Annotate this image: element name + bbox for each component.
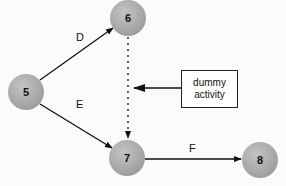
edge-label-d: D bbox=[76, 31, 84, 43]
dummy-activity-callout: dummy activity bbox=[181, 70, 238, 108]
node-8: 8 bbox=[242, 142, 278, 178]
edge-e-arrow bbox=[40, 104, 112, 148]
node-5: 5 bbox=[8, 74, 44, 110]
node-6: 6 bbox=[110, 0, 146, 36]
edge-label-f: F bbox=[189, 142, 196, 154]
callout-line-2: activity bbox=[194, 89, 225, 101]
callout-line-1: dummy bbox=[193, 77, 226, 89]
node-7: 7 bbox=[109, 140, 145, 176]
edge-label-e: E bbox=[76, 98, 83, 110]
